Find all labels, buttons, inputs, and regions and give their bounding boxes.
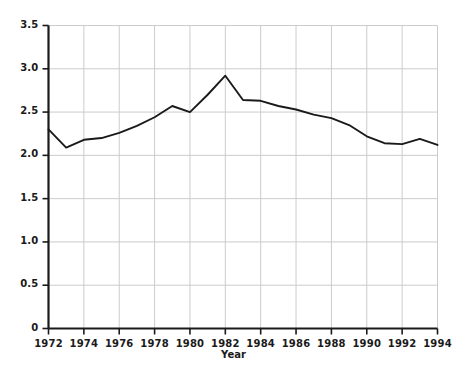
plot-area	[0, 0, 467, 370]
y-tick-label: 3.0	[7, 62, 39, 73]
y-tick-label: 2.0	[7, 148, 39, 159]
y-tick-label: 3.5	[7, 19, 39, 30]
y-tick-label: 1.5	[7, 192, 39, 203]
x-axis-title: Year	[0, 349, 467, 360]
vertical-gridlines	[84, 26, 402, 329]
x-tick-label: 1994	[416, 338, 460, 349]
y-tick-label: 0	[7, 322, 39, 333]
y-tick-label: 2.5	[7, 105, 39, 116]
line-chart: 00.51.01.52.02.53.03.5 19721974197619781…	[0, 0, 467, 370]
horizontal-gridlines	[49, 69, 438, 285]
y-tick-label: 0.5	[7, 278, 39, 289]
y-tick-label: 1.0	[7, 235, 39, 246]
plot-frame	[49, 26, 438, 329]
